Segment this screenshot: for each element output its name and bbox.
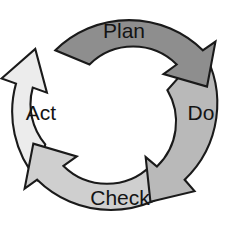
segment-label-act: Act — [26, 101, 57, 124]
segment-label-plan: Plan — [103, 19, 145, 42]
segment-label-check: Check — [90, 186, 150, 209]
segment-label-do: Do — [188, 101, 215, 124]
pdca-cycle-svg: Plan Do Check Act — [0, 0, 238, 238]
pdca-cycle-diagram: Plan Do Check Act — [0, 0, 238, 238]
